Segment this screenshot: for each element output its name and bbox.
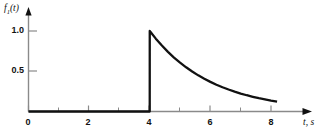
y-tick-label-0.5: 0.5 xyxy=(2,66,24,75)
plot-canvas xyxy=(0,0,329,136)
y-axis-arrowhead-icon xyxy=(25,7,31,16)
x-tick-label-8: 8 xyxy=(263,118,279,127)
x-tick-label-2: 2 xyxy=(80,118,96,127)
figure-plot-f1-of-t: f1(t) t, s 1.0 0.5 0 2 4 6 8 xyxy=(0,0,329,136)
x-axis-arrowhead-icon xyxy=(303,108,313,115)
y-tick-label-1.0: 1.0 xyxy=(2,26,24,35)
y-axis-label-argument: (t) xyxy=(10,3,19,13)
x-axis-label: t, s xyxy=(303,118,314,128)
y-axis-label: f1(t) xyxy=(4,4,19,15)
x-tick-label-4: 4 xyxy=(141,118,157,127)
x-tick-label-0: 0 xyxy=(20,118,36,127)
data-curve-f1 xyxy=(29,31,278,112)
x-tick-label-6: 6 xyxy=(202,118,218,127)
